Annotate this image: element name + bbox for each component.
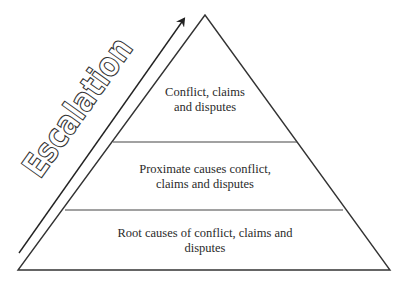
tier-label-middle: Proximate causes conflict, claims and di… — [120, 162, 290, 192]
tier-label-bottom: Root causes of conflict, claims and disp… — [100, 226, 310, 256]
tier-label-top: Conflict, claims and disputes — [150, 85, 260, 115]
